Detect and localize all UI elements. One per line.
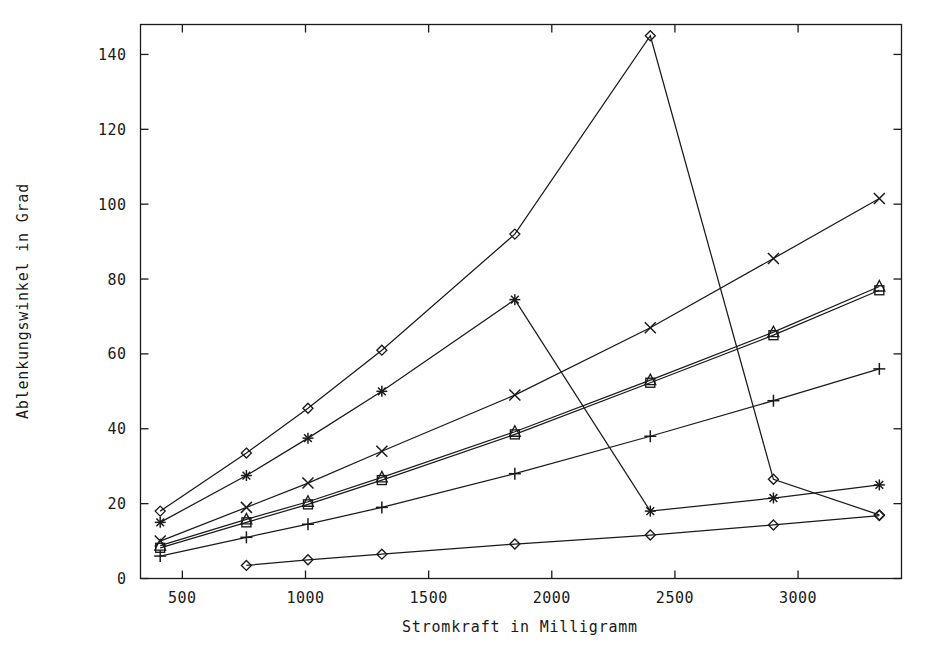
y-tick-label: 80 — [107, 271, 126, 289]
data-point-asterisk — [509, 294, 520, 305]
x-tick-label: 2500 — [656, 589, 694, 607]
chart-background — [0, 0, 928, 653]
line-chart: 50010001500200025003000 0204060801001201… — [0, 0, 928, 653]
x-tick-label: 500 — [168, 589, 197, 607]
x-tick-label: 3000 — [779, 589, 817, 607]
data-point-asterisk — [155, 517, 166, 528]
y-tick-label: 0 — [117, 570, 127, 588]
y-tick-label: 40 — [107, 420, 126, 438]
y-tick-label: 60 — [107, 345, 126, 363]
chart-container: 50010001500200025003000 0204060801001201… — [0, 0, 928, 653]
x-axis-title: Stromkraft in Milligramm — [402, 618, 638, 636]
x-tick-label: 2000 — [533, 589, 571, 607]
data-point-asterisk — [874, 479, 885, 490]
x-tick-label: 1000 — [286, 589, 324, 607]
y-tick-label: 140 — [98, 46, 127, 64]
data-point-asterisk — [241, 470, 252, 481]
x-tick-label: 1500 — [410, 589, 448, 607]
data-point-asterisk — [768, 493, 779, 504]
y-tick-label: 120 — [98, 121, 127, 139]
y-tick-label: 20 — [107, 495, 126, 513]
data-point-asterisk — [302, 433, 313, 444]
data-point-asterisk — [645, 506, 656, 517]
data-point-asterisk — [376, 386, 387, 397]
y-axis-title: Ablenkungswinkel in Grad — [14, 183, 32, 419]
y-tick-label: 100 — [98, 196, 127, 214]
